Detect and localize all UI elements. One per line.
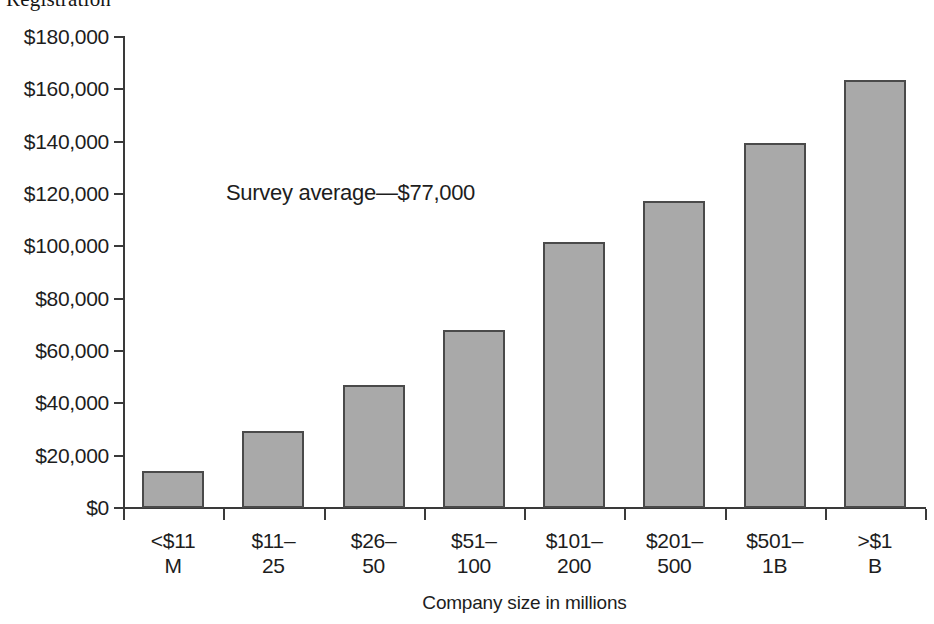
x-axis-tick-mark (725, 509, 727, 520)
x-axis-tick-mark (925, 509, 927, 520)
bar (142, 471, 204, 508)
x-axis-category-label-line1: <$11 (151, 529, 196, 552)
y-axis-tick-label: $120,000 (24, 183, 109, 204)
x-axis-category-label-line2: 500 (624, 553, 724, 578)
bar (844, 80, 906, 508)
x-axis-category-label: $201–500 (624, 528, 724, 578)
y-axis-tick-mark (114, 36, 123, 38)
x-axis-category-label: $101–200 (524, 528, 624, 578)
y-axis-tick-mark (114, 193, 123, 195)
y-axis-tick-mark (114, 350, 123, 352)
y-axis-tick-mark (114, 507, 123, 509)
bar (744, 143, 806, 508)
x-axis-category-label-line1: $501– (746, 529, 803, 552)
y-axis-tick-label: $40,000 (35, 392, 109, 413)
x-axis-tick-mark (324, 509, 326, 520)
x-axis-tick-mark (223, 509, 225, 520)
x-axis-tick-mark (424, 509, 426, 520)
y-axis-tick-mark (114, 88, 123, 90)
x-axis-category-label-line1: >$1 (858, 529, 893, 552)
x-axis-category-label-line2: B (825, 553, 925, 578)
x-axis-tick-mark (624, 509, 626, 520)
x-axis-category-label-line1: $51– (451, 529, 497, 552)
y-axis-tick-label: $20,000 (35, 445, 109, 466)
bar (643, 201, 705, 508)
y-axis-tick-mark (114, 298, 123, 300)
x-axis-category-label-line1: $201– (646, 529, 703, 552)
bar (443, 330, 505, 508)
y-axis-tick-label: $100,000 (24, 235, 109, 256)
x-axis-category-label-line2: M (123, 553, 223, 578)
y-axis-tick-label: $80,000 (35, 288, 109, 309)
x-axis-category-label-line2: 50 (324, 553, 424, 578)
x-axis-category-label-line2: 25 (223, 553, 323, 578)
x-axis-tick-mark (825, 509, 827, 520)
y-axis-tick-mark (114, 402, 123, 404)
y-axis-tick-mark (114, 455, 123, 457)
y-axis-tick-mark (114, 245, 123, 247)
y-axis-tick-label: $180,000 (24, 26, 109, 47)
bar (543, 242, 605, 508)
x-axis-title: Company size in millions (123, 592, 926, 614)
x-axis-category-label: $51–100 (424, 528, 524, 578)
x-axis-category-label-line2: 200 (524, 553, 624, 578)
survey-average-annotation: Survey average—$77,000 (226, 180, 475, 206)
y-axis-tick-label: $60,000 (35, 340, 109, 361)
x-axis-tick-mark (123, 509, 125, 520)
y-axis-tick-label: $140,000 (24, 131, 109, 152)
x-axis-category-label: $11–25 (223, 528, 323, 578)
x-axis-category-label-line2: 100 (424, 553, 524, 578)
bar-chart-figure: Registration $180,000$160,000$140,000$12… (0, 0, 934, 624)
plot-area: $180,000$160,000$140,000$120,000$100,000… (123, 37, 925, 508)
x-axis-tick-mark (524, 509, 526, 520)
bar (242, 431, 304, 508)
x-axis-category-label-line2: 1B (725, 553, 825, 578)
x-axis-category-label-line1: $26– (351, 529, 397, 552)
x-axis-category-label: $26–50 (324, 528, 424, 578)
bar (343, 385, 405, 508)
x-axis-category-label: >$1B (825, 528, 925, 578)
y-axis-tick-label: $160,000 (24, 78, 109, 99)
x-axis-category-label-line1: $101– (546, 529, 603, 552)
x-axis-category-label: <$11M (123, 528, 223, 578)
page-heading-cropped: Registration (6, 0, 111, 12)
x-axis-category-label-line1: $11– (251, 529, 295, 552)
y-axis-tick-label: $0 (86, 497, 109, 518)
x-axis-category-label: $501–1B (725, 528, 825, 578)
y-axis-tick-mark (114, 141, 123, 143)
